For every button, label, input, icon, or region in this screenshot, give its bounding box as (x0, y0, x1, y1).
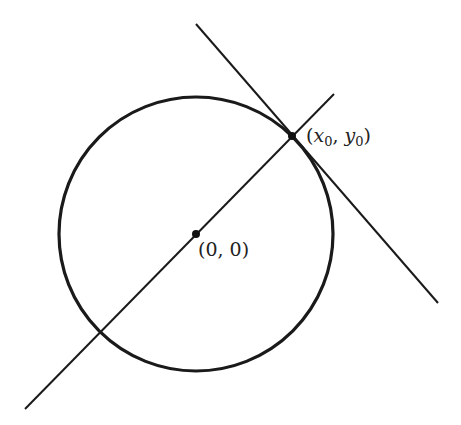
tangent-point-label: (x0, y0) (306, 124, 371, 149)
tangent-point (288, 132, 296, 140)
origin-label: (0, 0) (198, 238, 249, 260)
origin-point (192, 230, 200, 238)
radial-line (25, 94, 334, 409)
tangent-diagram: (0, 0) (x0, y0) (0, 0, 461, 425)
tangent-line (196, 24, 438, 303)
